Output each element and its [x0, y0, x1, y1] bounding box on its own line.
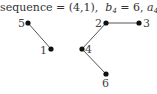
- node-6: [103, 71, 108, 76]
- label-node-5: 5: [18, 17, 25, 30]
- label-node-3: 3: [143, 17, 150, 30]
- label-node-4: 4: [85, 43, 92, 56]
- node-5: [25, 20, 30, 25]
- label-node-1: 1: [40, 44, 47, 57]
- graph-diagram: 5 1 2 3 4 6: [0, 0, 157, 94]
- node-3: [136, 20, 141, 25]
- node-2: [103, 20, 108, 25]
- node-labels: 5 1 2 3 4 6: [18, 17, 150, 90]
- label-node-2: 2: [95, 17, 102, 30]
- node-1: [48, 46, 53, 51]
- node-4: [79, 46, 84, 51]
- label-node-6: 6: [102, 77, 109, 90]
